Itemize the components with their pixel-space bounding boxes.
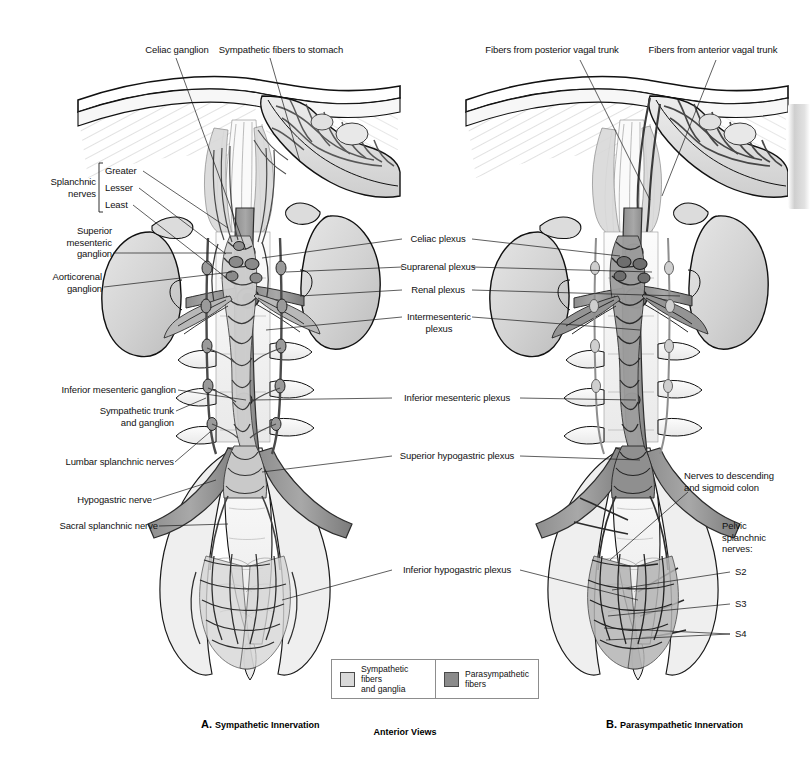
label-sympathetic-trunk-and-ganglion: Sympathetic trunk and ganglion <box>62 405 174 428</box>
label-superior-hypogastric-plexus: Superior hypogastric plexus <box>390 450 524 462</box>
anatomy-plate: Celiac ganglion Sympathetic fibers to st… <box>0 0 810 770</box>
panel-b-artwork <box>466 77 788 680</box>
label-sympathetic-fibers-to-stomach: Sympathetic fibers to stomach <box>208 44 354 56</box>
label-inferior-mesenteric-ganglion: Inferior mesenteric ganglion <box>28 384 176 396</box>
legend: Sympathetic fibers and ganglia Parasympa… <box>331 659 539 699</box>
label-lesser-splanchnic: Lesser <box>105 182 133 194</box>
label-sacral-splanchnic-nerve: Sacral splanchnic nerve <box>38 520 158 532</box>
legend-label-parasympathetic: Parasympathetic fibers <box>465 669 529 689</box>
label-superior-mesenteric-ganglion: Superior mesenteric ganglion <box>30 225 112 260</box>
parasympathetic-swatch <box>444 672 459 687</box>
label-suprarenal-plexus: Suprarenal plexus <box>392 261 484 273</box>
label-aorticorenal-ganglion: Aorticorenal ganglion <box>20 271 102 294</box>
label-hypogastric-nerve: Hypogastric nerve <box>60 494 152 506</box>
page-edge-artifact <box>788 104 810 209</box>
label-s4: S4 <box>735 628 746 640</box>
label-splanchnic-nerves-group: Splanchnic nerves <box>38 176 96 199</box>
label-nerves-to-descending-sigmoid-colon: Nerves to descending and sigmoid colon <box>684 470 808 493</box>
legend-item-sympathetic: Sympathetic fibers and ganglia <box>332 660 435 698</box>
label-fibers-posterior-vagal-trunk: Fibers from posterior vagal trunk <box>470 44 634 56</box>
label-renal-plexus: Renal plexus <box>402 284 474 296</box>
label-pelvic-splanchnic-nerves: Pelvic splanchnic nerves: <box>722 520 792 555</box>
label-greater-splanchnic: Greater <box>105 165 137 177</box>
label-least-splanchnic: Least <box>105 199 128 211</box>
label-s2: S2 <box>735 566 746 578</box>
label-lumbar-splanchnic-nerves: Lumbar splanchnic nerves <box>42 456 174 468</box>
label-inferior-mesenteric-plexus: Inferior mesenteric plexus <box>394 392 520 404</box>
label-intermesenteric-plexus: Intermesenteric plexus <box>392 311 486 334</box>
label-fibers-anterior-vagal-trunk: Fibers from anterior vagal trunk <box>634 44 792 56</box>
sympathetic-swatch <box>340 672 355 687</box>
label-inferior-hypogastric-plexus: Inferior hypogastric plexus <box>392 564 522 576</box>
label-s3: S3 <box>735 598 746 610</box>
legend-label-sympathetic: Sympathetic fibers and ganglia <box>361 664 430 694</box>
label-celiac-plexus: Celiac plexus <box>404 233 472 245</box>
legend-item-parasympathetic: Parasympathetic fibers <box>435 660 538 698</box>
caption-anterior-views: Anterior Views <box>0 727 810 737</box>
